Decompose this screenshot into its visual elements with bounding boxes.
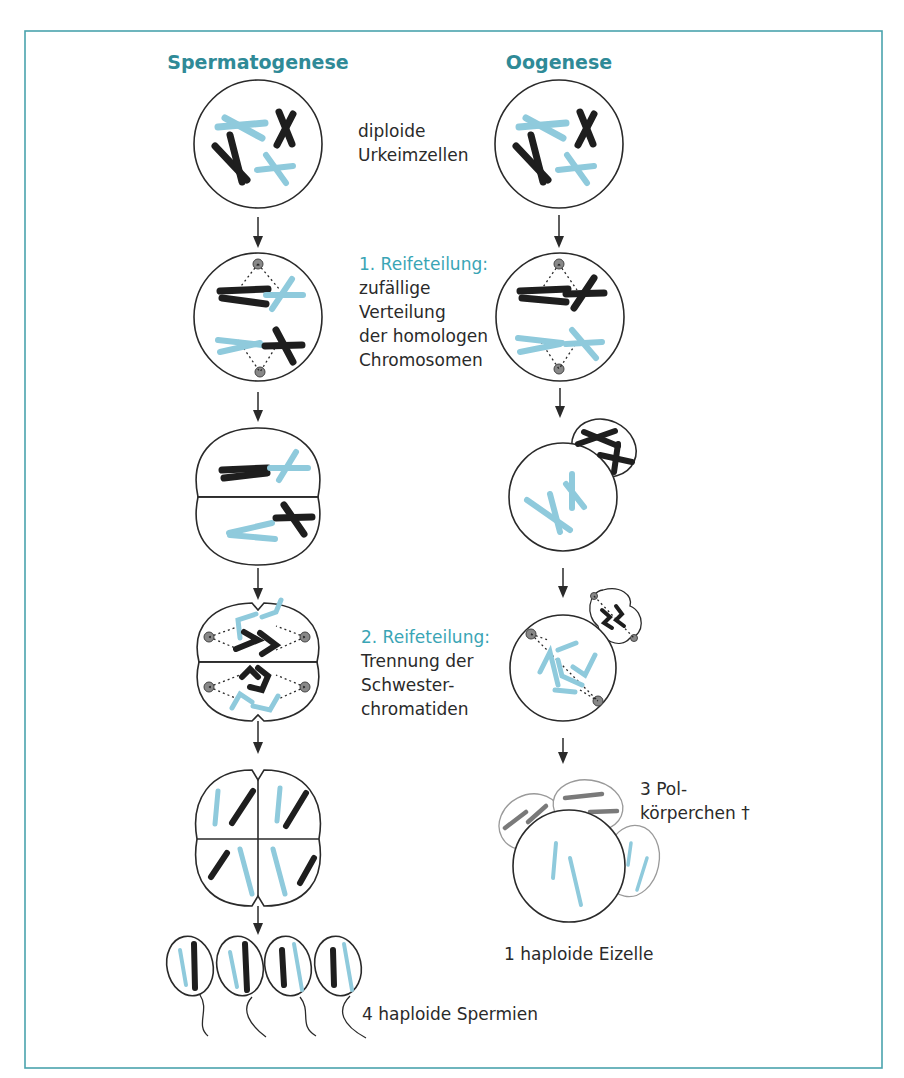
- svg-text:Schwester-: Schwester-: [361, 675, 454, 695]
- label-meiosis2: 2. Reifeteilung: Trennung der Schwester-…: [360, 627, 490, 719]
- egg-cell: [513, 810, 625, 922]
- sperm-primordial-cell: [194, 80, 322, 208]
- label-sperm: 4 haploide Spermien: [362, 1004, 538, 1024]
- sperm-meiosis1-cell: [194, 253, 322, 381]
- svg-text:Chromosomen: Chromosomen: [359, 350, 483, 370]
- title-oogenesis: Oogenese: [506, 51, 612, 73]
- label-egg: 1 haploide Eizelle: [504, 944, 653, 964]
- svg-text:Urkeimzellen: Urkeimzellen: [358, 145, 468, 165]
- svg-text:der homologen: der homologen: [359, 326, 488, 346]
- svg-text:Trennung der: Trennung der: [360, 651, 474, 671]
- oo-primordial-cell: [495, 80, 623, 208]
- label-polar-bodies: 3 Pol- körperchen †: [640, 779, 750, 823]
- sperm-cells: [161, 932, 366, 1038]
- sperm-4: [309, 932, 366, 1038]
- svg-text:1. Reifeteilung:: 1. Reifeteilung:: [359, 254, 488, 274]
- oo-meiosis2-cells: [510, 589, 641, 721]
- sperm-1: [161, 932, 218, 1036]
- diagram-frame: [25, 31, 882, 1068]
- sperm-meiosis2-division: [196, 770, 321, 906]
- label-primordial-cells: diploide Urkeimzellen: [358, 121, 468, 165]
- svg-text:2. Reifeteilung:: 2. Reifeteilung:: [361, 627, 490, 647]
- title-spermatogenesis: Spermatogenese: [167, 51, 348, 73]
- oo-meiosis1-cell: [496, 253, 624, 381]
- svg-text:diploide: diploide: [358, 121, 425, 141]
- svg-text:Verteilung: Verteilung: [359, 302, 446, 322]
- svg-text:körperchen †: körperchen †: [640, 803, 750, 823]
- label-meiosis1: 1. Reifeteilung: zufällige Verteilung de…: [359, 254, 488, 370]
- sperm-3: [259, 932, 316, 1036]
- svg-text:chromatiden: chromatiden: [361, 699, 469, 719]
- svg-text:3 Pol-: 3 Pol-: [640, 779, 687, 799]
- sperm-2: [211, 932, 268, 1037]
- sperm-meiosis2-cells: [197, 600, 319, 721]
- meiosis-diagram: Spermatogenese Oogenese: [0, 0, 904, 1078]
- sperm-meiosis1-division: [196, 428, 320, 565]
- oo-meiosis1-division: [509, 409, 646, 551]
- svg-text:zufällige: zufällige: [359, 278, 431, 298]
